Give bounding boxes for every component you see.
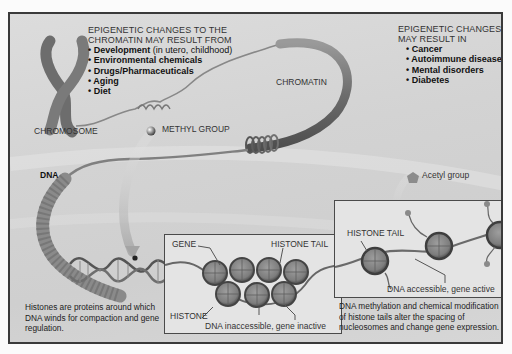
nucleosome-open-3: [487, 222, 503, 248]
nucleosome-cluster: [203, 258, 308, 307]
histones-caption: Histones are proteins around which DNA w…: [25, 302, 163, 334]
gene-label: GENE: [172, 240, 196, 250]
chromosome-shape: [46, 41, 84, 132]
effect-item: Diabetes: [406, 75, 502, 85]
cause-item: Diet: [88, 86, 232, 96]
open-nucleosomes-art: [335, 201, 503, 296]
nucleosome-open-1: [362, 248, 388, 274]
methyl-group-label: METHYL GROUP: [162, 125, 230, 135]
methylation-caption: DNA methylation and chemical modificatio…: [339, 301, 501, 333]
inset-open-chromatin: HISTONE TAIL DNA accessible, gene active: [334, 200, 503, 298]
causes-block: EPIGENETIC CHANGES TO THE CHROMATIN MAY …: [88, 25, 232, 97]
histone-tail-label-inactive: HISTONE TAIL: [271, 240, 328, 250]
acetyl-group-label: Acetyl group: [422, 171, 469, 181]
histone-tail-label-active: HISTONE TAIL: [347, 229, 404, 239]
cause-item: Environmental chemicals: [88, 55, 232, 65]
cause-item: Drugs/Pharmaceuticals: [88, 66, 232, 76]
methyl-group-ball: [147, 127, 156, 136]
effects-block: EPIGENETIC CHANGES MAY RESULT IN Cancer …: [398, 24, 502, 85]
causes-heading-line1: EPIGENETIC CHANGES TO THE: [88, 25, 232, 35]
effects-list: Cancer Autoimmune disease Mental disorde…: [406, 44, 502, 85]
chromatin-label: CHROMATIN: [276, 78, 327, 88]
cause-item: Aging: [88, 76, 232, 86]
effects-heading-line2: MAY RESULT IN: [398, 34, 502, 44]
dna-inaccessible-label: DNA inaccessible, gene inactive: [205, 322, 326, 332]
effect-item: Autoimmune disease: [406, 54, 502, 64]
dna-label: DNA: [40, 171, 58, 181]
effects-heading-line1: EPIGENETIC CHANGES: [398, 24, 502, 34]
diagram-frame: GENE HISTONE TAIL HISTONE DNA inaccessib…: [8, 12, 503, 344]
chromosome-label: CHROMOSOME: [34, 127, 98, 137]
effect-item: Cancer: [406, 44, 502, 54]
dna-accessible-label: DNA accessible, gene active: [387, 285, 495, 295]
histone-label: HISTONE: [170, 312, 208, 322]
cause-item: Development (in utero, childhood): [88, 45, 232, 55]
causes-heading-line2: CHROMATIN MAY RESULT FROM: [88, 35, 232, 45]
inset-condensed-chromatin: GENE HISTONE TAIL HISTONE DNA inaccessib…: [164, 234, 342, 334]
causes-list: Development (in utero, childhood) Enviro…: [88, 45, 232, 96]
nucleosome-open-2: [426, 233, 452, 259]
effect-item: Mental disorders: [406, 65, 502, 75]
